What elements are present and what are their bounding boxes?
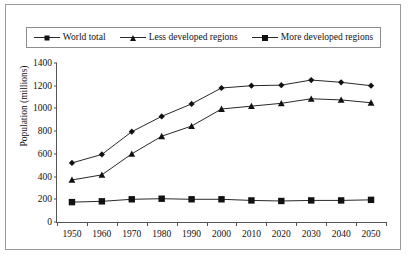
data-point-marker <box>278 82 284 88</box>
series-world-total <box>69 77 374 166</box>
x-axis-tick-label: 2030 <box>302 229 321 239</box>
legend-label: More developed regions <box>281 33 373 43</box>
data-point-marker <box>129 196 135 202</box>
x-axis-tick-mark <box>87 222 88 226</box>
series-layer <box>57 63 386 222</box>
data-point-marker <box>188 101 194 107</box>
diamond-marker-icon <box>34 33 60 43</box>
data-point-marker <box>338 197 344 203</box>
data-point-marker <box>158 133 165 139</box>
data-point-marker <box>218 196 224 202</box>
legend-label: Less developed regions <box>149 33 238 43</box>
y-axis-title: Population (millions) <box>19 46 29 166</box>
x-axis-tick-label: 1960 <box>92 229 111 239</box>
x-axis-tick-label: 1980 <box>152 229 171 239</box>
x-axis-tick-label: 2010 <box>242 229 261 239</box>
data-point-marker <box>248 83 254 89</box>
legend-entry-more-developed-regions: More developed regions <box>252 33 373 43</box>
x-axis-tick-mark <box>386 222 387 226</box>
x-axis-tick-mark <box>326 222 327 226</box>
x-axis-tick-label: 2000 <box>212 229 231 239</box>
x-axis-tick-mark <box>177 222 178 226</box>
y-axis-tick-label: 400 <box>38 172 52 182</box>
data-point-marker <box>218 85 224 91</box>
x-axis-tick-label: 1970 <box>122 229 141 239</box>
chart-legend: World total Less developed regions More … <box>26 27 381 48</box>
plot-axes: 0200400600800100012001400195019601970198… <box>56 63 386 223</box>
series-less-developed-regions <box>69 95 375 182</box>
data-point-marker <box>248 197 254 203</box>
legend-label: World total <box>63 33 106 43</box>
data-point-marker <box>128 150 135 156</box>
x-axis-tick-label: 1990 <box>182 229 201 239</box>
x-axis-tick-mark <box>147 222 148 226</box>
data-point-marker <box>368 83 374 89</box>
x-axis-tick-label: 2040 <box>332 229 351 239</box>
y-axis-tick-label: 0 <box>47 217 52 227</box>
y-axis-tick-mark <box>54 63 57 64</box>
data-point-marker <box>188 196 194 202</box>
y-axis-tick-mark <box>54 131 57 132</box>
data-point-marker <box>368 197 374 203</box>
x-axis-tick-mark <box>236 222 237 226</box>
square-marker-icon <box>252 33 278 43</box>
x-axis-tick-label: 2050 <box>362 229 381 239</box>
legend-entry-world-total: World total <box>34 33 106 43</box>
y-axis-tick-label: 1400 <box>33 58 52 68</box>
x-axis-tick-mark <box>117 222 118 226</box>
data-point-marker <box>308 197 314 203</box>
y-axis-tick-mark <box>54 108 57 109</box>
y-axis-tick-mark <box>54 85 57 86</box>
plot-area: 0200400600800100012001400195019601970198… <box>56 63 386 223</box>
y-axis-tick-mark <box>54 153 57 154</box>
y-axis-tick-label: 200 <box>38 194 52 204</box>
x-axis-tick-mark <box>207 222 208 226</box>
x-axis-tick-label: 1950 <box>62 229 81 239</box>
y-axis-tick-label: 600 <box>38 149 52 159</box>
x-axis-tick-mark <box>356 222 357 226</box>
y-axis-tick-mark <box>54 199 57 200</box>
data-point-marker <box>158 196 164 202</box>
y-axis-tick-mark <box>54 176 57 177</box>
data-point-marker <box>69 199 75 205</box>
y-axis-tick-label: 1200 <box>33 81 52 91</box>
series-more-developed-regions <box>69 196 374 206</box>
data-point-marker <box>98 171 105 177</box>
data-point-marker <box>278 198 284 204</box>
x-axis-tick-mark <box>266 222 267 226</box>
legend-entry-less-developed-regions: Less developed regions <box>120 33 238 43</box>
triangle-marker-icon <box>120 33 146 43</box>
data-point-marker <box>99 198 105 204</box>
data-point-marker <box>69 160 75 166</box>
data-point-marker <box>338 79 344 85</box>
x-axis-tick-mark <box>296 222 297 226</box>
y-axis-tick-label: 800 <box>38 126 52 136</box>
x-axis-tick-label: 2020 <box>272 229 291 239</box>
series-line <box>72 80 371 163</box>
x-axis-tick-mark <box>57 222 58 226</box>
figure-panel: World total Less developed regions More … <box>5 4 401 250</box>
data-point-marker <box>159 113 165 119</box>
data-point-marker <box>188 123 195 129</box>
y-axis-tick-label: 1000 <box>33 103 52 113</box>
data-point-marker <box>308 77 314 83</box>
